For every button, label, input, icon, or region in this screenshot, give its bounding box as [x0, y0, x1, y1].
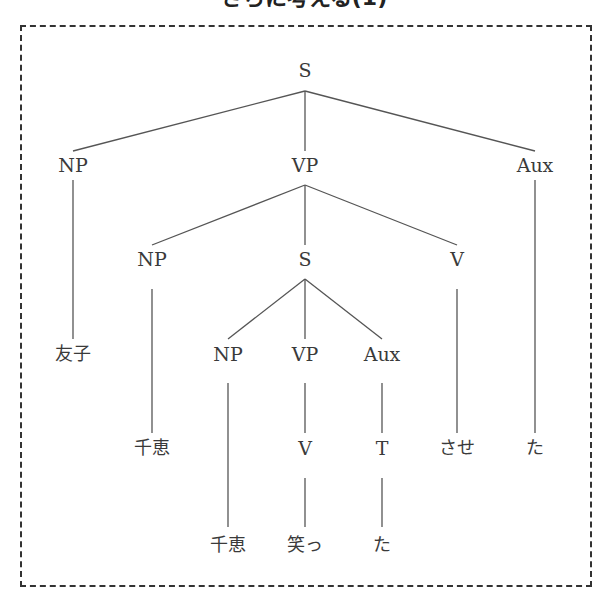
tree-edge [228, 279, 305, 339]
tree-node-s: S [298, 248, 311, 270]
tree-node-vp: VP [292, 154, 319, 176]
tree-leaf: 友子 [55, 343, 91, 365]
tree-leaf: 笑っ [287, 534, 323, 556]
tree-leaf: 千恵 [210, 534, 246, 556]
tree-node-v: V [298, 437, 312, 459]
tree-leaf: 千恵 [134, 437, 170, 459]
tree-node-np: NP [58, 154, 87, 176]
tree-edge [305, 279, 382, 339]
tree-edge [152, 185, 305, 245]
tree-node-np: NP [213, 343, 242, 365]
tree-leaf: た [373, 534, 391, 556]
tree-edge [305, 185, 457, 245]
tree-node-vp: VP [292, 343, 319, 365]
tree-node-s: S [298, 59, 311, 81]
tree-node-aux: Aux [517, 154, 554, 176]
tree-edges [0, 0, 608, 611]
tree-edge [305, 91, 535, 151]
tree-node-np: NP [137, 248, 166, 270]
tree-edge [73, 91, 305, 151]
tree-leaf: させ [439, 437, 475, 459]
tree-node-v: V [450, 248, 464, 270]
tree-node-t: T [376, 437, 389, 459]
tree-leaf: た [526, 437, 544, 459]
tree-node-aux: Aux [364, 343, 401, 365]
